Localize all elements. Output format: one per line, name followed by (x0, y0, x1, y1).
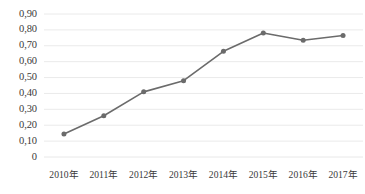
line-chart: 00,100,200,300,400,500,600,700,800,90 20… (0, 0, 365, 194)
x-axis-tick-label: 2011年 (89, 170, 118, 180)
y-axis-tick-label: 0,10 (0, 136, 37, 147)
data-point-markers (61, 31, 345, 137)
y-axis-tick-label: 0,90 (0, 9, 37, 20)
data-point-marker (341, 33, 346, 38)
data-point-marker (181, 78, 186, 83)
x-axis-tick-label: 2015年 (249, 170, 278, 180)
series-line-path (64, 33, 343, 134)
y-axis-tick-label: 0,60 (0, 56, 37, 67)
x-axis-tick-label: 2014年 (209, 170, 238, 180)
data-point-marker (301, 38, 306, 43)
plot-area (0, 0, 365, 194)
x-axis-tick-label: 2010年 (49, 170, 78, 180)
x-axis-tick-label: 2016年 (289, 170, 318, 180)
gridlines (44, 14, 363, 157)
y-axis-tick-label: 0,20 (0, 120, 37, 131)
data-point-marker (61, 131, 66, 136)
y-axis-tick-label: 0,30 (0, 104, 37, 115)
y-axis-tick-label: 0,40 (0, 88, 37, 99)
data-point-marker (101, 113, 106, 118)
y-axis-tick-label: 0,50 (0, 72, 37, 83)
data-point-marker (221, 49, 226, 54)
x-axis-tick-label: 2013年 (169, 170, 198, 180)
y-axis-tick-label: 0,80 (0, 24, 37, 35)
x-axis-tick-label: 2012年 (129, 170, 158, 180)
data-point-marker (141, 89, 146, 94)
y-axis-tick-label: 0 (0, 152, 37, 163)
y-axis-tick-label: 0,70 (0, 40, 37, 51)
data-point-marker (261, 31, 266, 36)
x-axis-tick-label: 2017年 (328, 170, 357, 180)
